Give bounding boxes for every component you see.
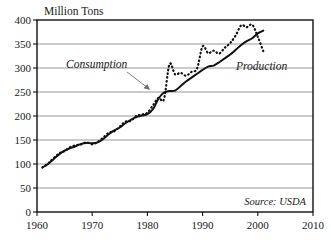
x-tick-label: 2000: [247, 219, 270, 231]
x-tick-label: 1970: [81, 219, 104, 231]
y-tick-label: 150: [15, 134, 32, 146]
chart-figure: 050100150200250300350400 196019701980199…: [0, 0, 331, 248]
y-tick-label: 100: [15, 158, 32, 170]
annotation-label-consumption: Consumption: [66, 58, 128, 71]
x-tick-label: 1960: [26, 219, 49, 231]
x-tick-label: 2010: [302, 219, 325, 231]
y-tick-label: 50: [20, 182, 32, 194]
x-tick-label: 1980: [136, 219, 159, 231]
y-tick-label: 0: [26, 206, 32, 218]
y-axis-title: Million Tons: [44, 5, 104, 17]
y-tick-label: 350: [15, 38, 32, 50]
x-axis-tick-labels: 196019701980199020002010: [26, 219, 325, 231]
x-tick-label: 1990: [192, 219, 215, 231]
y-axis-tick-labels: 050100150200250300350400: [15, 14, 32, 218]
y-tick-label: 300: [15, 62, 32, 74]
y-tick-label: 200: [15, 110, 32, 122]
source-note: Source: USDA: [244, 196, 306, 207]
annotation-label-production: Production: [235, 60, 288, 72]
y-tick-label: 250: [15, 86, 32, 98]
y-tick-label: 400: [15, 14, 32, 26]
chart-canvas: 050100150200250300350400 196019701980199…: [0, 0, 331, 248]
